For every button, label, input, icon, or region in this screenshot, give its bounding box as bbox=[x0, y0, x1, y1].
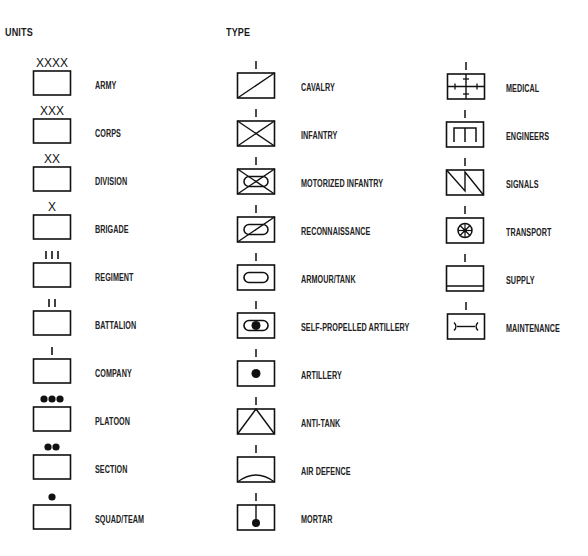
air-defence-symbol-icon bbox=[236, 442, 276, 478]
unit-row-section: SECTION bbox=[0, 436, 200, 484]
type-label: MORTAR bbox=[301, 514, 333, 525]
anti-tank-symbol-icon bbox=[236, 394, 276, 430]
cavalry-symbol-icon bbox=[236, 58, 276, 94]
unit-label: ARMY bbox=[95, 80, 116, 91]
type-label: SELF-PROPELLED ARTILLERY bbox=[301, 322, 409, 333]
type-row-mortar: MORTAR bbox=[235, 486, 455, 534]
motorized-infantry-symbol-icon bbox=[236, 154, 276, 190]
supply-symbol-icon bbox=[445, 251, 485, 287]
unit-row-platoon: PLATOON bbox=[0, 388, 200, 436]
type-row-motorized-infantry: MOTORIZED INFANTRY bbox=[235, 150, 455, 198]
squad-team-symbol-icon bbox=[32, 490, 72, 526]
type-row-transport: TRANSPORT bbox=[445, 199, 588, 247]
type-label: CAVALRY bbox=[301, 82, 335, 93]
infantry-symbol-icon bbox=[236, 106, 276, 142]
signals-symbol-icon bbox=[445, 155, 485, 191]
company-symbol-icon bbox=[32, 344, 72, 380]
type-label: MEDICAL bbox=[506, 83, 539, 94]
reconnaissance-symbol-icon bbox=[236, 202, 276, 238]
type-label: ENGINEERS bbox=[506, 131, 549, 142]
type-row-cavalry: CAVALRY bbox=[235, 54, 455, 102]
type-label: AIR DEFENCE bbox=[301, 466, 351, 477]
type-row-medical: MEDICAL bbox=[445, 55, 588, 103]
division-symbol-icon: XX bbox=[32, 152, 72, 188]
unit-row-regiment: REGIMENT bbox=[0, 244, 200, 292]
type-row-self-propelled-artillery: SELF-PROPELLED ARTILLERY bbox=[235, 294, 455, 342]
section-symbol-icon bbox=[32, 440, 72, 476]
svg-text:XX: XX bbox=[44, 152, 60, 166]
battalion-symbol-icon bbox=[32, 296, 72, 332]
transport-symbol-icon bbox=[445, 203, 485, 239]
unit-row-corps: XXX CORPS bbox=[0, 100, 200, 148]
engineers-symbol-icon bbox=[445, 107, 485, 143]
unit-label: REGIMENT bbox=[95, 272, 134, 283]
brigade-symbol-icon: X bbox=[32, 200, 72, 236]
self-propelled-artillery-symbol-icon bbox=[236, 298, 276, 334]
corps-symbol-icon: XXX bbox=[32, 104, 72, 140]
unit-label: PLATOON bbox=[95, 416, 130, 427]
type-row-supply: SUPPLY bbox=[445, 247, 588, 295]
type-label: SIGNALS bbox=[506, 179, 539, 190]
armour-tank-symbol-icon bbox=[236, 250, 276, 286]
type-row-artillery: ARTILLERY bbox=[235, 342, 455, 390]
type-row-armour-tank: ARMOUR/TANK bbox=[235, 246, 455, 294]
type-label: ANTI-TANK bbox=[301, 418, 340, 429]
type-label: MAINTENANCE bbox=[506, 323, 560, 334]
type-row-reconnaissance: RECONNAISSANCE bbox=[235, 198, 455, 246]
unit-row-squad-team: SQUAD/TEAM bbox=[0, 486, 200, 534]
svg-text:XXXX: XXXX bbox=[36, 56, 68, 70]
type-label: RECONNAISSANCE bbox=[301, 226, 370, 237]
type-label: TRANSPORT bbox=[506, 227, 551, 238]
type-row-maintenance: MAINTENANCE bbox=[445, 295, 588, 343]
type-label: ARTILLERY bbox=[301, 370, 342, 381]
svg-text:X: X bbox=[48, 200, 56, 214]
type-row-engineers: ENGINEERS bbox=[445, 103, 588, 151]
artillery-symbol-icon bbox=[236, 346, 276, 382]
unit-row-division: XX DIVISION bbox=[0, 148, 200, 196]
unit-label: SECTION bbox=[95, 464, 128, 475]
type-label: INFANTRY bbox=[301, 130, 337, 141]
unit-row-army: XXXX ARMY bbox=[0, 52, 200, 100]
unit-label: BRIGADE bbox=[95, 224, 129, 235]
units-heading: UNITS bbox=[5, 26, 33, 38]
regiment-symbol-icon bbox=[32, 248, 72, 284]
unit-row-company: COMPANY bbox=[0, 340, 200, 388]
type-row-anti-tank: ANTI-TANK bbox=[235, 390, 455, 438]
type-row-signals: SIGNALS bbox=[445, 151, 588, 199]
unit-label: SQUAD/TEAM bbox=[95, 514, 144, 525]
unit-row-battalion: BATTALION bbox=[0, 292, 200, 340]
type-row-infantry: INFANTRY bbox=[235, 102, 455, 150]
type-label: ARMOUR/TANK bbox=[301, 274, 356, 285]
unit-label: DIVISION bbox=[95, 176, 127, 187]
army-symbol-icon: XXXX bbox=[32, 56, 72, 92]
unit-label: CORPS bbox=[95, 128, 121, 139]
medical-symbol-icon bbox=[446, 59, 486, 95]
svg-text:XXX: XXX bbox=[40, 104, 64, 118]
unit-label: BATTALION bbox=[95, 320, 136, 331]
maintenance-symbol-icon bbox=[446, 299, 486, 335]
type-row-air-defence: AIR DEFENCE bbox=[235, 438, 455, 486]
unit-label: COMPANY bbox=[95, 368, 132, 379]
mortar-symbol-icon bbox=[236, 490, 276, 526]
type-heading: TYPE bbox=[226, 26, 250, 38]
platoon-symbol-icon bbox=[32, 392, 72, 428]
type-label: MOTORIZED INFANTRY bbox=[301, 178, 383, 189]
unit-row-brigade: X BRIGADE bbox=[0, 196, 200, 244]
type-label: SUPPLY bbox=[506, 275, 535, 286]
